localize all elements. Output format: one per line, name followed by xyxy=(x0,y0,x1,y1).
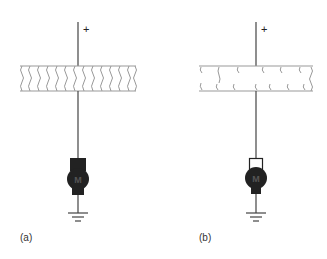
panel-label-a: (a) xyxy=(20,232,32,243)
motor-a: M xyxy=(67,158,89,195)
motor-letter-b: M xyxy=(252,174,260,184)
motor-b: M xyxy=(245,159,267,195)
ground-icon xyxy=(68,213,88,221)
motor-letter-a: M xyxy=(74,175,82,185)
wavy-band-a xyxy=(20,66,137,91)
panel-b: M xyxy=(199,22,313,221)
terminal-plus-a: + xyxy=(83,24,89,35)
panel-label-b: (b) xyxy=(199,232,211,243)
panel-a: M xyxy=(20,22,137,221)
circuit-diagram: M xyxy=(0,0,327,259)
terminal-plus-b: + xyxy=(261,24,267,35)
ground-icon xyxy=(246,213,266,221)
wavy-band-b xyxy=(199,66,313,91)
